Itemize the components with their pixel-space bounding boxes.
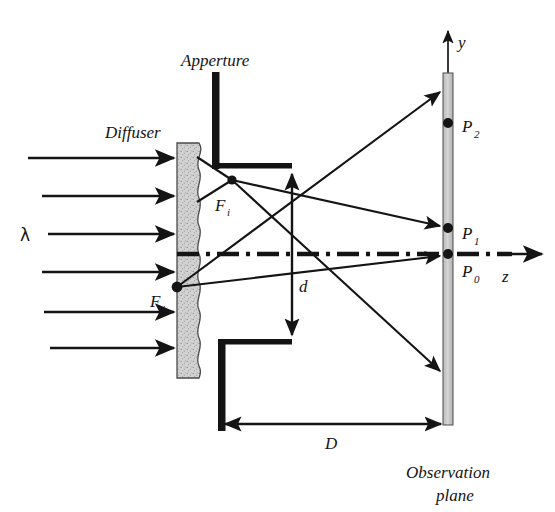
point-fj-marker bbox=[172, 282, 183, 293]
incoming-wave-arrows bbox=[28, 158, 174, 348]
observation-plane-label-line1: Observation bbox=[406, 463, 490, 482]
ray-fj-to-p0 bbox=[177, 256, 440, 287]
diffuser-label: Diffuser bbox=[104, 123, 161, 142]
z-axis-label: z bbox=[501, 267, 509, 286]
point-p2-label: P bbox=[461, 117, 472, 136]
aperture-upper-lip bbox=[212, 163, 292, 169]
point-fi-marker bbox=[227, 175, 236, 184]
point-p2-marker bbox=[443, 118, 453, 128]
aperture-lower-vertical-bar bbox=[218, 339, 226, 431]
y-axis-label: y bbox=[456, 33, 466, 52]
aperture-lower-lip bbox=[218, 339, 292, 345]
point-p2-subscript: 2 bbox=[474, 128, 480, 140]
point-p0-label: P bbox=[461, 262, 472, 281]
point-p0-marker bbox=[443, 249, 453, 259]
point-p1-subscript: 1 bbox=[474, 235, 480, 247]
point-fi-label: F bbox=[214, 196, 226, 215]
rays-from-fi bbox=[197, 157, 440, 371]
distance-label: D bbox=[324, 434, 338, 453]
apperture-label: Apperture bbox=[180, 51, 250, 70]
point-fj-label: F bbox=[149, 292, 161, 311]
lambda-label: λ bbox=[20, 225, 30, 245]
diffuser-body bbox=[177, 143, 201, 378]
point-p1-label: P bbox=[461, 224, 472, 243]
diagram-canvas: Apperture Diffuser λ F i F j P 2 P 1 P 0… bbox=[0, 0, 555, 512]
diffraction-diagram-figure: Apperture Diffuser λ F i F j P 2 P 1 P 0… bbox=[0, 0, 555, 512]
point-p0-subscript: 0 bbox=[474, 273, 480, 285]
point-fi-subscript: i bbox=[227, 206, 230, 218]
diffuser-plate bbox=[177, 143, 201, 378]
aperture-upper-vertical-bar bbox=[212, 72, 220, 169]
ray-fi-to-p1 bbox=[232, 180, 440, 226]
aperture-height-label: d bbox=[299, 277, 308, 296]
point-p1-marker bbox=[443, 223, 453, 233]
observation-plane-label-line2: plane bbox=[435, 486, 474, 505]
